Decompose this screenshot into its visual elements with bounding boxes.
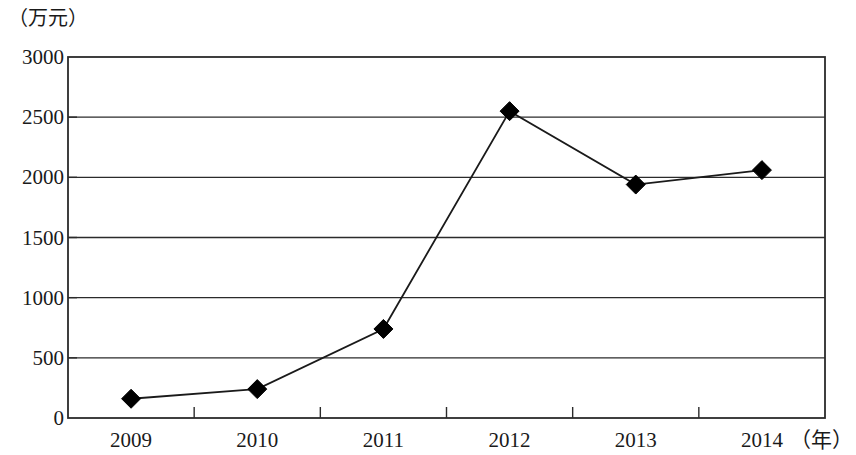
gridlines <box>68 117 825 358</box>
x-axis-tick-label: 2011 <box>323 429 443 452</box>
line-chart: （万元） 050010001500200025003000 2009201020… <box>0 0 856 455</box>
series-line <box>131 111 762 399</box>
data-point-marker <box>122 389 141 408</box>
series-markers <box>122 102 772 409</box>
x-axis-tick-label: 2010 <box>197 429 317 452</box>
x-axis-unit-label: （年） <box>790 428 853 453</box>
x-axis-tick-label: 2012 <box>450 429 570 452</box>
x-axis-tick-label: 2013 <box>576 429 696 452</box>
data-point-marker <box>248 380 267 399</box>
x-axis-ticks <box>68 117 699 418</box>
x-axis-tick-label: 2009 <box>71 429 191 452</box>
plot-area <box>0 0 856 455</box>
data-point-marker <box>374 319 393 338</box>
